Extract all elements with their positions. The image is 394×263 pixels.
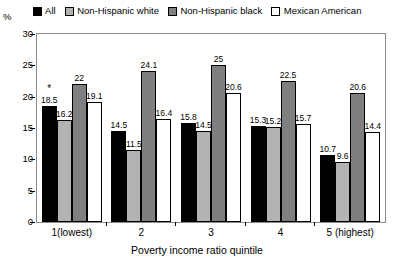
y-axis-tick-mark: [30, 222, 35, 223]
legend-swatch-icon: [271, 7, 280, 16]
x-axis-tick-mark: [245, 222, 246, 226]
y-axis-tick-mark: [30, 128, 35, 129]
bar-slot: 16.2: [57, 34, 72, 222]
bar: [72, 84, 87, 222]
legend-item: Non-Hispanic white: [65, 6, 159, 16]
bar: [335, 162, 350, 222]
bar-slot: 22.5: [281, 34, 296, 222]
bar-value-label: 24.1: [141, 61, 158, 70]
chart-legend: AllNon-Hispanic whiteNon-Hispanic blackM…: [0, 0, 394, 22]
bar-slot: 11.5: [126, 34, 141, 222]
bar: [111, 131, 126, 222]
bar-slot: 10.7: [320, 34, 335, 222]
legend-swatch-icon: [168, 7, 177, 16]
bar-slot: 25: [211, 34, 226, 222]
y-axis-tick-mark: [30, 159, 35, 160]
bar-slot: 14.5: [111, 34, 126, 222]
x-axis-tick-labels: 1(lowest)2345 (highest): [37, 227, 385, 238]
y-axis-unit-label: %: [3, 12, 11, 22]
bar-value-label: 11.5: [126, 140, 142, 149]
bar-group: 15.814.52520.6: [176, 34, 246, 222]
bar-value-label: 19.1: [86, 92, 103, 101]
bar-groups: 18.5*16.22219.114.511.524.116.415.814.52…: [37, 34, 385, 222]
bar: [365, 132, 380, 222]
y-axis-tick-mark: [30, 97, 35, 98]
bar-slot: 15.2: [266, 34, 281, 222]
bar: [181, 123, 196, 222]
bar-value-label: 20.6: [349, 83, 366, 92]
legend-swatch-icon: [33, 7, 42, 16]
x-axis-tick-label: 4: [246, 227, 316, 238]
legend-item-label: Non-Hispanic white: [77, 6, 159, 16]
bar-value-label: 9.6: [337, 152, 349, 161]
bar: [266, 127, 281, 222]
bar-slot: 20.6: [350, 34, 365, 222]
legend-item-label: All: [45, 6, 56, 16]
bar-slot: 20.6: [226, 34, 241, 222]
significance-asterisk: *: [47, 84, 51, 94]
bar-value-label: 20.6: [225, 83, 242, 92]
x-axis-tick-label: 3: [176, 227, 246, 238]
x-axis-tick-mark: [314, 222, 315, 226]
bar-slot: 14.5: [196, 34, 211, 222]
x-axis-tick-mark: [106, 222, 107, 226]
x-axis-tick-label: 1(lowest): [37, 227, 107, 238]
bar-group: 15.315.222.515.7: [246, 34, 316, 222]
bar: [251, 126, 266, 222]
bar: [320, 155, 335, 222]
bar: [211, 65, 226, 222]
bar-slot: 18.5*: [42, 34, 57, 222]
legend-swatch-icon: [65, 7, 74, 16]
bar: [226, 93, 241, 222]
bar-value-label: 16.4: [156, 109, 173, 118]
bar: [57, 120, 72, 222]
bar: [156, 119, 171, 222]
bar: [126, 150, 141, 222]
x-axis-tick-mark: [175, 222, 176, 226]
bar: [350, 93, 365, 222]
bar-value-label: 15.2: [265, 117, 282, 126]
bar-slot: 22: [72, 34, 87, 222]
bar-value-label: 16.2: [56, 110, 73, 119]
bar-slot: 24.1: [141, 34, 156, 222]
bar: [196, 131, 211, 222]
bar: [42, 106, 57, 222]
bar-value-label: 10.7: [319, 145, 336, 154]
bar-value-label: 22: [75, 74, 84, 83]
bar: [296, 124, 311, 222]
x-axis-tick-label: 2: [107, 227, 177, 238]
bar-group: 14.511.524.116.4: [107, 34, 177, 222]
bar-slot: 9.6: [335, 34, 350, 222]
bar-slot: 14.4: [365, 34, 380, 222]
bar-value-label: 18.5: [41, 96, 58, 105]
bar-value-label: 14.5: [195, 121, 212, 130]
bar-value-label: 14.4: [364, 122, 381, 131]
legend-item-label: Non-Hispanic black: [180, 6, 262, 16]
bar: [141, 71, 156, 222]
bar-slot: 16.4: [156, 34, 171, 222]
bar-value-label: 15.7: [295, 114, 312, 123]
legend-item: Mexican American: [271, 6, 361, 16]
bar: [87, 102, 102, 222]
bar-slot: 15.3: [251, 34, 266, 222]
y-axis-tick-mark: [30, 191, 35, 192]
bar-slot: 15.7: [296, 34, 311, 222]
y-axis-tick-mark: [30, 34, 35, 35]
bar-slot: 19.1: [87, 34, 102, 222]
y-axis-tick-mark: [30, 65, 35, 66]
bar-value-label: 22.5: [280, 71, 297, 80]
bar: [281, 81, 296, 222]
x-axis-tick-label: 5 (highest): [315, 227, 385, 238]
bar-slot: 15.8: [181, 34, 196, 222]
bar-group: 18.5*16.22219.1: [37, 34, 107, 222]
legend-item-label: Mexican American: [284, 6, 362, 16]
bar-value-label: 25: [214, 55, 223, 64]
bar-group: 10.79.620.614.4: [315, 34, 385, 222]
legend-item: Non-Hispanic black: [168, 6, 262, 16]
bar-value-label: 14.5: [111, 121, 128, 130]
legend-item: All: [33, 6, 56, 16]
x-axis-title: Poverty income ratio quintile: [0, 244, 394, 256]
